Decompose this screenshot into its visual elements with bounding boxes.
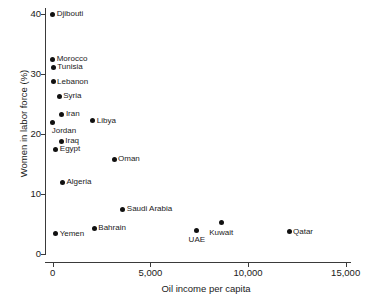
- data-point-kuwait: [219, 220, 224, 225]
- data-point-oman: [112, 157, 117, 162]
- y-axis-line: [45, 8, 46, 255]
- data-point-label: Egypt: [60, 145, 80, 153]
- data-point-label: Lebanon: [57, 78, 88, 86]
- data-point-label: UAE: [189, 236, 205, 244]
- data-point-label: Libya: [97, 117, 116, 125]
- data-point-label: Bahrain: [98, 224, 126, 232]
- data-point-jordan: [50, 120, 55, 125]
- data-point-bahrain: [92, 226, 97, 231]
- plot-area: 010203040 05,00010,00015,000 DjiboutiMor…: [0, 0, 370, 303]
- x-tick-label: 0: [50, 268, 55, 278]
- x-axis-line: [45, 262, 351, 263]
- data-point-qatar: [287, 229, 292, 234]
- y-tick-mark: [41, 74, 45, 75]
- x-tick-label: 10,000: [233, 268, 262, 278]
- data-point-label: Tunisia: [57, 63, 83, 71]
- y-tick-label: 40: [17, 9, 41, 19]
- data-point-lebanon: [51, 79, 56, 84]
- data-point-algeria: [60, 180, 65, 185]
- x-tick-label: 15,000: [331, 268, 360, 278]
- y-tick-mark: [41, 14, 45, 15]
- data-point-label: Iran: [66, 110, 80, 118]
- data-point-libya: [90, 118, 95, 123]
- data-point-morocco: [50, 57, 55, 62]
- data-point-saudi-arabia: [120, 207, 125, 212]
- y-axis-title: Women in labor force (%): [18, 39, 29, 209]
- y-tick-label-wrap: 0: [10, 249, 41, 259]
- data-point-label: Yemen: [60, 230, 85, 238]
- data-point-label: Saudi Arabia: [127, 205, 172, 213]
- data-point-label: Algeria: [66, 178, 91, 186]
- data-point-label: Jordan: [52, 127, 76, 135]
- y-tick-label-wrap: 40: [10, 9, 41, 19]
- y-tick-mark: [41, 134, 45, 135]
- data-point-egypt: [53, 147, 58, 152]
- y-tick-mark: [41, 194, 45, 195]
- data-point-label: Djibouti: [57, 10, 84, 18]
- x-tick-label: 5,000: [138, 268, 162, 278]
- x-axis-title: Oil income per capita: [0, 283, 370, 294]
- data-point-label: Kuwait: [209, 229, 233, 237]
- data-point-iran: [59, 112, 64, 117]
- data-point-tunisia: [51, 65, 56, 70]
- data-point-label: Oman: [118, 155, 140, 163]
- data-point-uae: [194, 228, 199, 233]
- data-point-syria: [57, 94, 62, 99]
- scatter-chart: 010203040 05,00010,00015,000 DjiboutiMor…: [0, 0, 370, 303]
- y-tick-mark: [41, 254, 45, 255]
- data-point-label: Qatar: [293, 228, 313, 236]
- data-point-djibouti: [50, 12, 55, 17]
- y-tick-label: 0: [17, 249, 41, 259]
- data-point-iraq: [59, 139, 64, 144]
- data-point-label: Syria: [63, 92, 81, 100]
- data-point-yemen: [53, 231, 58, 236]
